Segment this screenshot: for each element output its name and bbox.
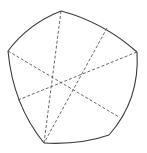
edge-top-right (61, 11, 137, 52)
edge-bottom-right-bottom-left (44, 135, 109, 143)
edge-left-top (8, 11, 61, 51)
edge-bottom-left-left (8, 51, 44, 143)
dashed-line-2 (44, 28, 107, 143)
outline-edges (8, 11, 137, 143)
curved-pentagon-diagram (0, 0, 147, 153)
edge-right-bottom-right (109, 52, 137, 135)
